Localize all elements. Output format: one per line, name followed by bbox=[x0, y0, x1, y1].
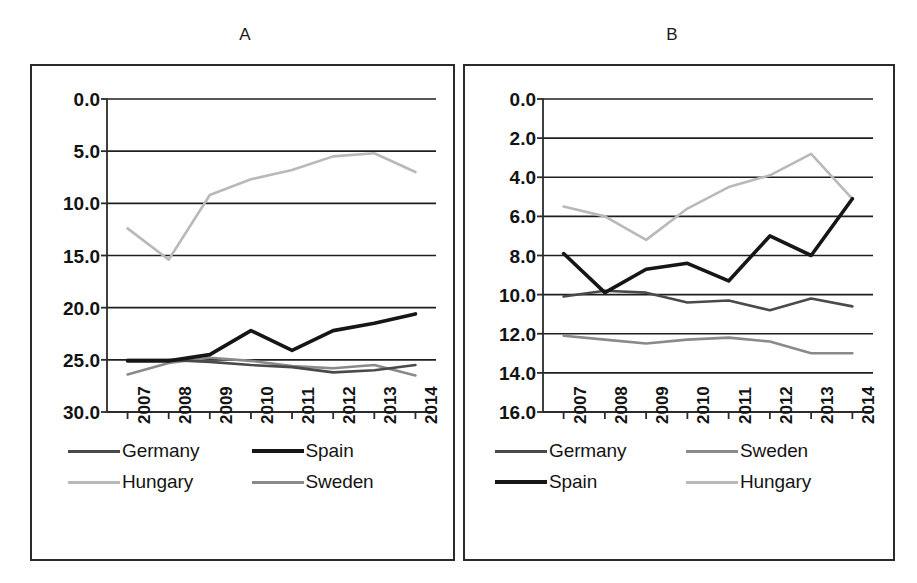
legend-entry-hungary[interactable]: Hungary bbox=[68, 471, 252, 493]
legend-label: Hungary bbox=[122, 471, 193, 493]
panel-b-legend: GermanySwedenSpainHungary bbox=[465, 440, 893, 493]
y-axis-tick-label: 2.0 bbox=[465, 129, 536, 148]
series-line-hungary bbox=[128, 153, 416, 259]
panel-a-legend: GermanySpainHungarySweden bbox=[32, 440, 453, 493]
legend-line-swatch-icon bbox=[252, 449, 304, 453]
y-axis-tick-label: 0.0 bbox=[465, 90, 536, 109]
x-axis-tick-label: 2011 bbox=[737, 387, 754, 424]
x-axis-tick-label: 2014 bbox=[860, 386, 877, 424]
y-axis-tick-label: 10.0 bbox=[465, 286, 536, 305]
x-axis-tick-label: 2009 bbox=[218, 386, 235, 424]
legend-line-swatch-icon bbox=[68, 481, 120, 484]
x-axis-tick-label: 2014 bbox=[423, 386, 440, 424]
series-line-spain bbox=[564, 199, 853, 293]
y-axis-tick-label: 12.0 bbox=[465, 325, 536, 344]
series-line-spain bbox=[128, 314, 416, 361]
x-axis-tick-label: 2012 bbox=[778, 386, 795, 424]
legend-entry-germany[interactable]: Germany bbox=[68, 440, 252, 462]
x-axis-tick-label: 2008 bbox=[613, 386, 630, 424]
y-axis-tick-label: 15.0 bbox=[32, 247, 100, 266]
legend-label: Germany bbox=[549, 440, 626, 462]
legend-line-swatch-icon bbox=[686, 450, 738, 453]
legend-label: Spain bbox=[549, 471, 597, 493]
legend-entry-spain[interactable]: Spain bbox=[495, 471, 686, 493]
panel-b: GermanySwedenSpainHungary 16.014.012.010… bbox=[463, 64, 895, 561]
x-axis-tick-label: 2007 bbox=[572, 386, 589, 424]
y-axis-tick-label: 4.0 bbox=[465, 168, 536, 187]
figure-root: A B GermanySpainHungarySweden 30.025.020… bbox=[0, 0, 917, 583]
legend-label: Sweden bbox=[740, 440, 808, 462]
x-axis-tick-label: 2013 bbox=[819, 386, 836, 424]
series-line-hungary bbox=[564, 154, 853, 240]
legend-label: Germany bbox=[122, 440, 199, 462]
y-axis-tick-label: 30.0 bbox=[32, 403, 100, 422]
legend-label: Sweden bbox=[306, 471, 374, 493]
legend-label: Spain bbox=[306, 440, 354, 462]
y-axis-tick-label: 16.0 bbox=[465, 403, 536, 422]
x-axis-tick-label: 2013 bbox=[382, 386, 399, 424]
legend-entry-sweden[interactable]: Sweden bbox=[686, 440, 877, 462]
legend-entry-hungary[interactable]: Hungary bbox=[686, 471, 877, 493]
x-axis-tick-label: 2007 bbox=[136, 386, 153, 424]
y-axis-tick-label: 20.0 bbox=[32, 299, 100, 318]
legend-entry-sweden[interactable]: Sweden bbox=[252, 471, 436, 493]
x-axis-tick-label: 2012 bbox=[341, 386, 358, 424]
legend-line-swatch-icon bbox=[495, 480, 547, 484]
y-axis-tick-label: 10.0 bbox=[32, 194, 100, 213]
series-line-germany bbox=[564, 291, 853, 311]
panel-b-title: B bbox=[652, 26, 692, 43]
legend-line-swatch-icon bbox=[495, 450, 547, 453]
y-axis-tick-label: 5.0 bbox=[32, 142, 100, 161]
series-line-sweden bbox=[564, 336, 853, 354]
x-axis-tick-label: 2008 bbox=[177, 386, 194, 424]
legend-line-swatch-icon bbox=[686, 481, 738, 484]
x-axis-tick-label: 2011 bbox=[300, 387, 317, 424]
y-axis-tick-label: 0.0 bbox=[32, 90, 100, 109]
legend-line-swatch-icon bbox=[68, 450, 120, 453]
legend-entry-germany[interactable]: Germany bbox=[495, 440, 686, 462]
legend-entry-spain[interactable]: Spain bbox=[252, 440, 436, 462]
legend-line-swatch-icon bbox=[252, 481, 304, 484]
y-axis-tick-label: 14.0 bbox=[465, 364, 536, 383]
x-axis-tick-label: 2009 bbox=[654, 386, 671, 424]
panel-a: GermanySpainHungarySweden 30.025.020.015… bbox=[30, 64, 455, 561]
legend-label: Hungary bbox=[740, 471, 811, 493]
y-axis-tick-label: 25.0 bbox=[32, 351, 100, 370]
x-axis-tick-label: 2010 bbox=[259, 386, 276, 424]
y-axis-tick-label: 6.0 bbox=[465, 207, 536, 226]
panel-a-title: A bbox=[225, 26, 265, 43]
x-axis-tick-label: 2010 bbox=[695, 386, 712, 424]
y-axis-tick-label: 8.0 bbox=[465, 247, 536, 266]
